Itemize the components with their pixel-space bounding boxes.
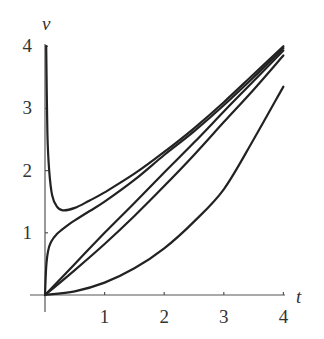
x-tick-label: 3 bbox=[219, 306, 229, 327]
x-tick-label: 2 bbox=[159, 306, 169, 327]
y-tick-label: 2 bbox=[23, 160, 33, 181]
x-tick-label: 1 bbox=[100, 306, 110, 327]
y-tick-label: 1 bbox=[23, 222, 33, 243]
y-tick-label: 4 bbox=[23, 35, 33, 56]
curves bbox=[45, 46, 283, 295]
x-tick-label: 4 bbox=[279, 306, 289, 327]
y-axis-label: v bbox=[42, 13, 51, 34]
chart-canvas: 1 2 3 4 1 2 3 4 t v bbox=[0, 0, 324, 339]
y-tick-label: 3 bbox=[23, 97, 33, 118]
curve-3 bbox=[45, 51, 283, 295]
x-axis-label: t bbox=[296, 286, 302, 307]
